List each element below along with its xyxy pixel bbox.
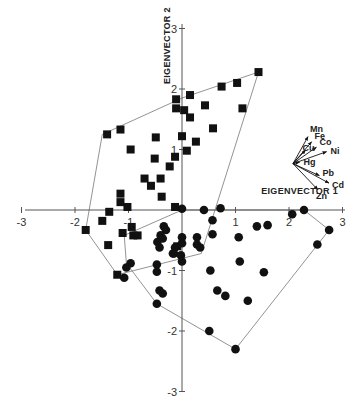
square-point [82, 226, 90, 234]
circle-point [260, 268, 269, 277]
loading-label-pb: Pb [322, 168, 334, 178]
square-point [158, 193, 166, 201]
data-points [82, 68, 334, 353]
circle-point [208, 216, 217, 225]
square-point [105, 208, 113, 216]
square-point [116, 198, 124, 206]
circle-point [213, 286, 222, 295]
y-axis-title: EIGENVECTOR 2 [162, 7, 172, 84]
square-point [152, 133, 160, 141]
circle-point [313, 240, 322, 249]
circle-point [169, 249, 178, 258]
square-point [171, 153, 179, 161]
square-point [178, 132, 186, 140]
y-tick-label: -3 [167, 386, 177, 398]
square-point [127, 146, 135, 154]
square-point [123, 203, 131, 211]
square-point [172, 95, 180, 103]
circle-point [263, 221, 272, 230]
circle-point [235, 257, 244, 266]
circle-point [153, 299, 162, 308]
square-point [134, 231, 142, 239]
circle-point [122, 263, 131, 272]
y-tick-label: -1 [167, 265, 177, 277]
circle-point [253, 222, 262, 231]
x-tick-label: -3 [17, 216, 27, 228]
square-point [98, 217, 106, 225]
square-point [104, 241, 112, 249]
square-point [180, 106, 188, 114]
circle-point [288, 210, 297, 219]
circle-point [300, 206, 309, 215]
circle-point [244, 296, 253, 305]
x-tick-label: 1 [232, 216, 238, 228]
circle-point [153, 267, 162, 276]
loading-label-cu: Cu [303, 143, 315, 153]
circle-point [178, 233, 187, 242]
circle-point [200, 206, 209, 215]
circle-point [205, 327, 214, 336]
loading-label-ni: Ni [331, 146, 340, 156]
square-point [186, 91, 194, 99]
square-point [147, 182, 155, 190]
square-point [116, 190, 124, 198]
circle-point [221, 292, 230, 301]
circle-point [206, 266, 215, 275]
square-point [218, 83, 226, 91]
circle-point [234, 233, 243, 242]
square-point [151, 155, 159, 163]
square-point [255, 68, 263, 76]
square-point [183, 147, 191, 155]
circle-point [196, 243, 205, 252]
circle-point [178, 257, 187, 266]
circle-point [208, 230, 217, 239]
circle-point [120, 273, 129, 282]
x-tick-label: 3 [339, 216, 345, 228]
circle-point [325, 226, 334, 235]
x-tick-label: -2 [70, 216, 80, 228]
square-point [119, 229, 127, 237]
scatter-plot: -3-2-1123321-1-2-3 MnFeCoCuNiHgPbCdZn EI… [0, 0, 364, 409]
circle-point [231, 345, 240, 354]
square-point [233, 79, 241, 87]
square-point [186, 113, 194, 121]
y-tick-label: -2 [167, 325, 177, 337]
square-point [192, 138, 200, 146]
circles-hull [124, 210, 329, 349]
x-axis-title: EIGENVECTOR 1 [261, 186, 338, 196]
square-point [128, 223, 136, 231]
square-point [172, 104, 180, 112]
square-point [116, 126, 124, 134]
circle-point [178, 204, 187, 213]
square-point [157, 175, 165, 183]
square-point [238, 104, 246, 112]
circle-point [155, 243, 164, 252]
circle-point [216, 204, 225, 213]
square-point [103, 130, 111, 138]
square-point [201, 101, 209, 109]
circle-point [193, 233, 202, 242]
square-point [166, 162, 174, 170]
square-point [209, 124, 217, 132]
square-point [141, 175, 149, 183]
loading-label-hg: Hg [304, 157, 316, 167]
circle-point [158, 289, 167, 298]
